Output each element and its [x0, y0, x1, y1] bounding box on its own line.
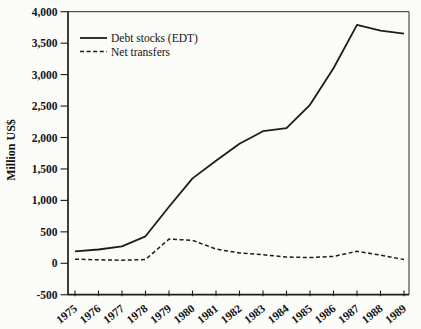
- line-chart-canvas: -50005001,0001,5002,0002,5003,0003,5004,…: [0, 0, 421, 329]
- y-tick-label: 500: [40, 226, 58, 238]
- y-tick-label: 1,000: [32, 194, 58, 206]
- legend-label-net-transfers: Net transfers: [111, 46, 171, 58]
- x-tick-label: 1989: [383, 302, 409, 326]
- x-tick-label: 1979: [148, 302, 174, 326]
- chart-figure: -50005001,0001,5002,0002,5003,0003,5004,…: [0, 0, 421, 329]
- x-tick-label: 1977: [101, 302, 127, 326]
- legend-label-debt-stocks: Debt stocks (EDT): [111, 32, 198, 45]
- y-axis-ticks: -50005001,0001,5002,0002,5003,0003,5004,…: [32, 6, 68, 301]
- y-axis-title: Million US$: [4, 119, 18, 181]
- x-tick-label: 1988: [359, 302, 385, 326]
- y-tick-label: 3,000: [32, 69, 58, 81]
- x-tick-label: 1981: [195, 302, 221, 326]
- data-series: [75, 25, 404, 260]
- y-tick-label: 3,500: [32, 37, 58, 49]
- legend: Debt stocks (EDT) Net transfers: [80, 32, 198, 58]
- y-tick-label: 2,500: [32, 100, 58, 112]
- x-tick-label: 1983: [242, 302, 268, 326]
- x-tick-label: 1975: [54, 302, 80, 326]
- y-tick-label: 4,000: [32, 6, 58, 18]
- y-tick-label: 2,000: [32, 132, 58, 144]
- x-tick-label: 1982: [218, 302, 244, 326]
- x-axis-ticks: 1975197619771978197919801981198219831984…: [54, 291, 409, 326]
- x-tick-label: 1984: [265, 302, 291, 326]
- y-tick-label: 0: [52, 257, 58, 269]
- x-tick-label: 1980: [171, 302, 197, 326]
- series-line-solid: [75, 25, 404, 251]
- y-tick-label: -500: [36, 289, 57, 301]
- series-line-dashed: [75, 239, 404, 260]
- x-tick-label: 1976: [77, 302, 103, 326]
- x-tick-label: 1985: [289, 302, 315, 326]
- x-tick-label: 1986: [312, 302, 338, 326]
- x-tick-label: 1978: [124, 302, 150, 326]
- x-tick-label: 1987: [336, 302, 362, 326]
- y-tick-label: 1,500: [32, 163, 58, 175]
